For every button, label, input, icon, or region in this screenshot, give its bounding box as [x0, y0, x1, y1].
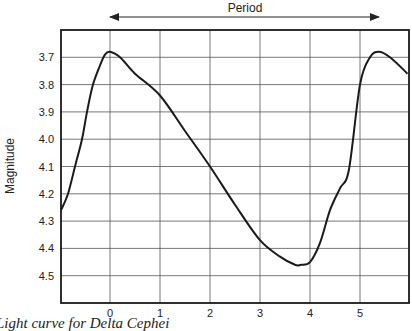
y-tick-label: 4.3 — [39, 215, 54, 227]
y-tick-label: 4.0 — [39, 133, 54, 145]
figure-caption: Light curve for Delta Cephei — [0, 316, 169, 331]
y-tick-label: 3.9 — [39, 106, 54, 118]
y-tick-label: 4.4 — [39, 242, 54, 254]
light-curve-line — [61, 52, 408, 266]
y-axis-tick-labels: 3.73.83.94.04.14.24.34.44.5 — [39, 51, 54, 281]
y-tick-label: 3.8 — [39, 79, 54, 91]
grid-lines — [61, 30, 409, 303]
x-tick-label: 4 — [307, 307, 313, 319]
y-tick-label: 4.2 — [39, 188, 54, 200]
y-tick-label: 4.1 — [39, 161, 54, 173]
x-tick-label: 5 — [357, 307, 363, 319]
x-tick-label: 2 — [207, 307, 213, 319]
period-label: Period — [228, 1, 263, 15]
y-axis-label: Magnitude — [3, 138, 17, 194]
y-tick-label: 3.7 — [39, 51, 54, 63]
x-tick-label: 3 — [257, 307, 263, 319]
y-tick-label: 4.5 — [39, 270, 54, 282]
